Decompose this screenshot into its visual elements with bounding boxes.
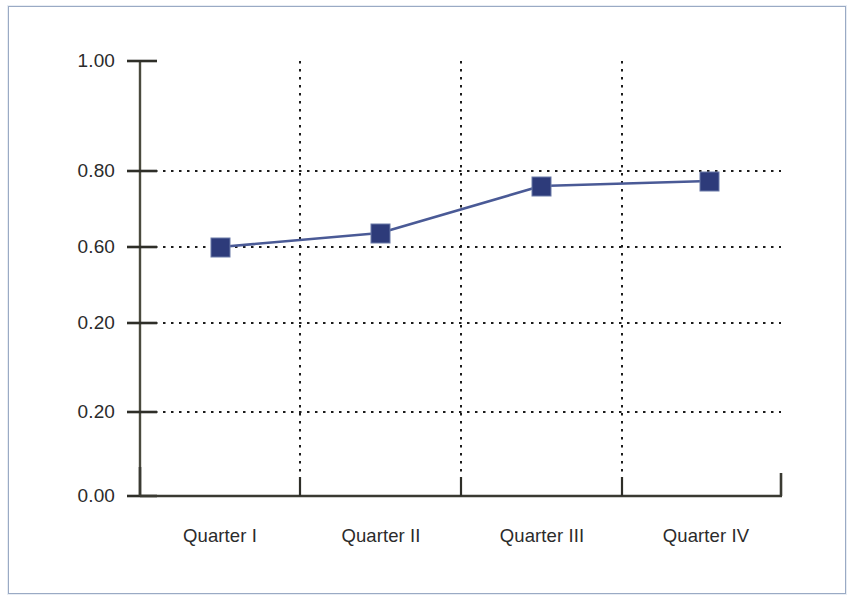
- data-point-quarter-3: [532, 177, 551, 196]
- series-line: [220, 181, 709, 247]
- chart-figure-frame: 1.00 0.80 0.60 0.20 0.20 0.00 Quarter I …: [8, 6, 846, 594]
- line-chart-graphic: [9, 7, 847, 595]
- plot-canvas: 1.00 0.80 0.60 0.20 0.20 0.00 Quarter I …: [9, 7, 847, 595]
- x-axis-label-quarter-3: Quarter III: [500, 525, 584, 547]
- y-axis-label-1: 1.00: [9, 50, 115, 72]
- y-axis-label-3: 0.60: [9, 236, 115, 258]
- data-point-quarter-1: [211, 238, 230, 257]
- x-axis-label-quarter-2: Quarter II: [341, 525, 420, 547]
- y-axis-label-2: 0.80: [9, 160, 115, 182]
- y-axis-label-6: 0.00: [9, 485, 115, 507]
- data-point-quarter-4: [700, 172, 719, 191]
- x-axis-label-quarter-1: Quarter I: [183, 525, 257, 547]
- y-axis-ticks: [127, 61, 157, 496]
- series-markers: [211, 172, 719, 257]
- y-axis-label-5: 0.20: [9, 401, 115, 423]
- x-axis-label-quarter-4: Quarter IV: [663, 525, 749, 547]
- data-point-quarter-2: [371, 224, 390, 243]
- y-axis-label-4: 0.20: [9, 312, 115, 334]
- vertical-gridlines: [300, 61, 622, 495]
